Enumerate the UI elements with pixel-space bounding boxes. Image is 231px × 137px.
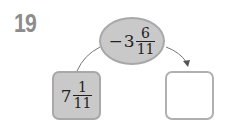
answer-box[interactable] [165,71,214,120]
mixed-number: − 3 6 11 [109,26,156,57]
numerator: 6 [140,26,151,41]
minus-sign: − [109,31,123,51]
whole-part: 7 [61,86,72,106]
left-connector-line [77,47,100,71]
right-arrow-line [166,47,187,63]
whole-part: 3 [124,31,135,51]
fraction: 1 11 [73,80,93,111]
numerator: 1 [77,80,88,95]
mixed-number: 7 1 11 [61,80,93,111]
arrow-head-icon [183,60,190,67]
ellipse-operand: − 3 6 11 [99,17,165,65]
denominator: 11 [73,96,93,111]
fraction: 6 11 [136,26,156,57]
left-box-operand: 7 1 11 [52,71,101,120]
denominator: 11 [136,42,156,57]
